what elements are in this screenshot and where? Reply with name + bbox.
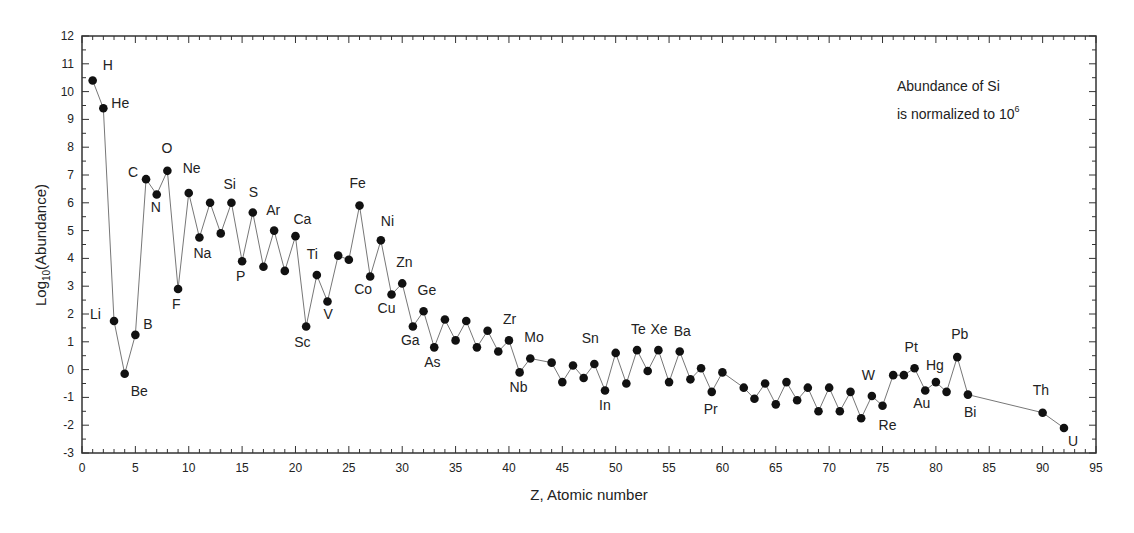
data-point: [355, 201, 364, 210]
y-axis-label-main: Log: [32, 281, 49, 306]
y-tick-label: 0: [67, 363, 74, 377]
element-label-fe: Fe: [350, 175, 367, 191]
element-label-te: Te: [631, 321, 646, 337]
data-point: [387, 290, 396, 299]
element-label-si: Si: [223, 176, 235, 192]
x-tick-label: 45: [556, 461, 570, 475]
element-label-ar: Ar: [266, 202, 280, 218]
element-label-ge: Ge: [418, 282, 437, 298]
data-point: [782, 378, 791, 387]
normalization-note-line1: Abundance of Si: [897, 78, 1000, 94]
data-point: [569, 361, 578, 370]
element-label-ti: Ti: [307, 246, 318, 262]
data-point: [718, 368, 727, 377]
data-point: [804, 383, 813, 392]
element-label-h: H: [103, 57, 113, 73]
element-label-xe: Xe: [650, 321, 667, 337]
data-point: [248, 208, 257, 217]
data-point: [270, 226, 279, 235]
y-tick-label: 11: [62, 57, 75, 71]
data-point: [665, 378, 674, 387]
x-tick-label: 95: [1089, 461, 1103, 475]
x-tick-label: 30: [396, 461, 410, 475]
x-tick-label: 80: [929, 461, 943, 475]
data-point: [654, 346, 663, 355]
data-point: [142, 175, 151, 184]
element-label-n: N: [151, 199, 161, 215]
x-tick-label: 70: [822, 461, 836, 475]
data-point: [377, 236, 386, 245]
data-point: [473, 343, 482, 352]
data-point: [216, 229, 225, 238]
x-tick-label: 25: [342, 461, 356, 475]
x-tick-label: 35: [449, 461, 463, 475]
data-point: [739, 383, 748, 392]
data-point: [441, 315, 450, 324]
data-point: [345, 255, 354, 264]
data-point: [313, 271, 322, 280]
data-point: [409, 322, 418, 331]
data-point: [953, 353, 962, 362]
x-tick-label: 75: [876, 461, 890, 475]
element-label-ga: Ga: [401, 332, 420, 348]
element-label-o: O: [161, 140, 172, 156]
y-tick-label: 10: [61, 85, 75, 99]
data-point: [814, 407, 823, 416]
x-axis-label: Z, Atomic number: [530, 486, 648, 503]
data-point: [942, 388, 951, 397]
data-point: [88, 76, 97, 85]
element-label-nb: Nb: [510, 379, 528, 395]
data-point: [259, 262, 268, 271]
data-point: [419, 307, 428, 316]
element-label-p: P: [236, 268, 245, 284]
element-label-th: Th: [1033, 382, 1049, 398]
data-point: [323, 297, 332, 306]
y-tick-label: -3: [63, 446, 74, 460]
data-point: [633, 346, 642, 355]
x-tick-label: 90: [1036, 461, 1050, 475]
data-point: [771, 400, 780, 409]
normalization-note-line2: is normalized to 106: [897, 104, 1020, 122]
x-tick-label: 20: [289, 461, 303, 475]
data-point: [1038, 408, 1047, 417]
x-tick-label: 50: [609, 461, 623, 475]
element-label-in: In: [599, 397, 611, 413]
y-axis-label-subscript: 10: [41, 269, 52, 281]
data-point: [622, 379, 631, 388]
data-point: [302, 322, 311, 331]
y-tick-label: 3: [67, 279, 74, 293]
data-point: [494, 347, 503, 356]
data-point: [675, 347, 684, 356]
y-tick-label: 4: [67, 251, 74, 265]
data-point: [99, 104, 108, 113]
element-label-w: W: [862, 367, 876, 383]
element-label-au: Au: [913, 395, 930, 411]
data-point: [825, 383, 834, 392]
data-point: [878, 401, 887, 410]
element-label-b: B: [143, 316, 152, 332]
element-label-be: Be: [131, 383, 148, 399]
data-point: [206, 199, 215, 208]
y-axis-label-rest: (Abundance): [32, 184, 49, 270]
data-point: [430, 343, 439, 352]
data-point: [900, 371, 909, 380]
data-point: [868, 392, 877, 401]
x-tick-label: 65: [769, 461, 783, 475]
element-label-u: U: [1068, 433, 1078, 449]
data-point: [579, 374, 588, 383]
data-point: [601, 386, 610, 395]
data-point: [163, 167, 172, 176]
y-tick-label: -1: [63, 390, 74, 404]
element-label-f: F: [172, 296, 181, 312]
data-point: [558, 378, 567, 387]
data-point: [590, 360, 599, 369]
data-point: [462, 317, 471, 326]
x-tick-label: 0: [79, 461, 86, 475]
data-point: [515, 368, 524, 377]
data-point: [836, 407, 845, 416]
element-label-ne: Ne: [183, 160, 201, 176]
data-point: [291, 232, 300, 241]
y-tick-label: 7: [67, 168, 74, 182]
data-point: [750, 394, 759, 403]
element-label-zr: Zr: [503, 311, 517, 327]
